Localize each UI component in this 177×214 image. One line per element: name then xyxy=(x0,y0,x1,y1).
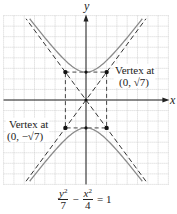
vertex-annotation-upper-line1: Vertex at xyxy=(115,64,154,76)
center-point xyxy=(84,98,87,101)
exponent: 2 xyxy=(64,187,68,195)
graph-canvas xyxy=(0,0,177,214)
vertex-annotation-lower-line2: (0, −√7) xyxy=(7,130,48,142)
denominator-4: 4 xyxy=(85,200,91,211)
exponent: 2 xyxy=(89,187,93,195)
vertex-annotation-upper-line2: (0, √7) xyxy=(115,76,154,88)
vertex-annotation-lower-line1: Vertex at xyxy=(7,118,48,130)
corner-point xyxy=(104,126,108,130)
equation: y2 7 − x2 4 = 1 xyxy=(58,186,111,211)
vertex-annotation-lower: Vertex at (0, −√7) xyxy=(6,118,49,142)
hyperbola-figure: y x Vertex at (0, √7) Vertex at (0, −√7)… xyxy=(0,0,177,214)
y-axis-label: y xyxy=(84,0,89,14)
vertex-annotation-upper: Vertex at (0, √7) xyxy=(114,64,155,88)
corner-point xyxy=(104,70,108,74)
vertex-point xyxy=(84,126,87,129)
minus-operator: − xyxy=(72,193,78,205)
fraction-x2-over-4: x2 4 xyxy=(83,186,93,211)
fraction-y2-over-7: y2 7 xyxy=(58,186,68,211)
denominator-7: 7 xyxy=(60,200,66,211)
vertex-point xyxy=(84,70,87,73)
x-axis-label: x xyxy=(170,93,175,108)
corner-point xyxy=(63,126,67,130)
equals-one: = 1 xyxy=(97,193,111,205)
corner-point xyxy=(63,70,67,74)
